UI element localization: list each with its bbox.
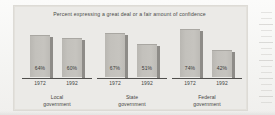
bar-value-label: 42% bbox=[212, 65, 232, 71]
year-label-1972: 1972 bbox=[26, 80, 54, 86]
bar-federal-1992[interactable]: 42% bbox=[212, 50, 232, 77]
bar-cap bbox=[212, 50, 232, 51]
bar-federal-1972[interactable]: 74% bbox=[180, 29, 200, 77]
bar-cap bbox=[137, 44, 157, 45]
bar-group-state: 67% 51% 1972 1992 State government bbox=[97, 19, 167, 107]
page-margin-artifact bbox=[257, 6, 273, 109]
year-ticks-federal: 1972 1992 bbox=[172, 80, 242, 88]
bar-shadow bbox=[232, 52, 235, 79]
group-label-line2: government bbox=[97, 101, 167, 108]
year-ticks-state: 1972 1992 bbox=[97, 80, 167, 88]
group-label-local: Local government bbox=[22, 94, 92, 107]
year-label-1972: 1972 bbox=[176, 80, 204, 86]
year-ticks-local: 1972 1992 bbox=[22, 80, 92, 88]
bar-cap bbox=[30, 35, 50, 36]
bar-value-label: 74% bbox=[180, 65, 200, 71]
bar-cap bbox=[105, 33, 125, 34]
bar-cap bbox=[62, 38, 82, 39]
bar-local-1972[interactable]: 64% bbox=[30, 35, 50, 77]
bar-value-label: 51% bbox=[137, 65, 157, 71]
group-label-line2: government bbox=[22, 101, 92, 108]
baseline-axis-state bbox=[97, 78, 167, 79]
bar-group-local: 64% 60% 1972 1992 Local government bbox=[22, 19, 92, 107]
page-bottom-shade bbox=[0, 111, 275, 115]
year-label-1972: 1972 bbox=[101, 80, 129, 86]
bar-shadow bbox=[82, 40, 85, 79]
baseline-axis-local bbox=[22, 78, 92, 79]
bar-group-federal-plot: 74% 42% bbox=[172, 25, 242, 77]
group-label-federal: Federal government bbox=[172, 94, 242, 107]
bar-shadow bbox=[157, 46, 160, 79]
bar-group-local-plot: 64% 60% bbox=[22, 25, 92, 77]
bar-group-state-plot: 67% 51% bbox=[97, 25, 167, 77]
figure-container: Percent expressing a great deal or a fai… bbox=[0, 0, 275, 115]
year-label-1992: 1992 bbox=[208, 80, 236, 86]
year-label-1992: 1992 bbox=[133, 80, 161, 86]
bar-state-1992[interactable]: 51% bbox=[137, 44, 157, 77]
chart-title: Percent expressing a great deal or a fai… bbox=[13, 11, 246, 18]
bar-shadow bbox=[200, 31, 203, 79]
baseline-axis-federal bbox=[172, 78, 242, 79]
bar-local-1992[interactable]: 60% bbox=[62, 38, 82, 77]
bar-shadow bbox=[50, 37, 53, 79]
group-label-state: State government bbox=[97, 94, 167, 107]
group-label-line2: government bbox=[172, 101, 242, 108]
bar-group-federal: 74% 42% 1972 1992 Federal government bbox=[172, 19, 242, 107]
bar-state-1972[interactable]: 67% bbox=[105, 33, 125, 77]
bar-cap bbox=[180, 29, 200, 30]
bar-value-label: 67% bbox=[105, 65, 125, 71]
year-label-1992: 1992 bbox=[58, 80, 86, 86]
bar-value-label: 60% bbox=[62, 65, 82, 71]
bar-shadow bbox=[125, 35, 128, 79]
bar-value-label: 64% bbox=[30, 65, 50, 71]
